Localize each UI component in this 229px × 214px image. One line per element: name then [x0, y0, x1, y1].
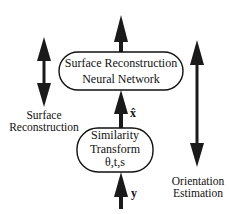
bottom-box-label: Similarity Transform θ,t,s: [77, 129, 153, 170]
right-label-line2: Estimation: [160, 187, 229, 199]
y-label: y: [131, 186, 137, 201]
output-arrow: [114, 15, 128, 53]
right-label-line1: Orientation: [160, 175, 229, 187]
top-box-label: Surface Reconstruction Neural Network: [59, 57, 183, 86]
x-hat-label: x̂: [130, 106, 136, 121]
top-box-line1: Surface Reconstruction: [59, 57, 183, 71]
x-hat-arrow: [114, 90, 128, 129]
surface-reconstruction-label: Surface Reconstruction: [0, 109, 88, 133]
orientation-estimation-double-arrow: [190, 40, 204, 167]
bottom-box-line2: Transform: [77, 143, 153, 157]
orientation-estimation-label: Orientation Estimation: [160, 175, 229, 199]
left-label-line2: Reconstruction: [0, 121, 88, 133]
bottom-box-line3: θ,t,s: [77, 156, 153, 170]
left-label-line1: Surface: [0, 109, 88, 121]
bottom-box-line1: Similarity: [77, 129, 153, 143]
surface-reconstruction-double-arrow: [37, 37, 51, 107]
top-box-line2: Neural Network: [59, 73, 183, 87]
y-input-arrow: [114, 172, 128, 209]
